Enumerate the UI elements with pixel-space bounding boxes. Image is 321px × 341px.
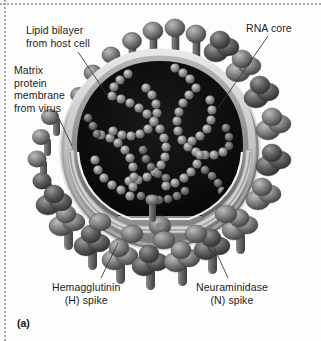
virus-illustration [0, 0, 321, 341]
figure-panel: Lipid bilayer from host cell Matrix prot… [0, 0, 321, 341]
label-matrix-protein: Matrix protein membrane from virus [14, 64, 65, 114]
figure-marker: (a) [17, 317, 30, 329]
label-lipid-bilayer: Lipid bilayer from host cell [26, 24, 90, 49]
label-neuraminidase-spike: Neuraminidase (N) spike [196, 281, 268, 306]
label-hemagglutinin-spike: Hemagglutinin (H) spike [52, 281, 120, 306]
label-rna-core: RNA core [246, 22, 292, 35]
